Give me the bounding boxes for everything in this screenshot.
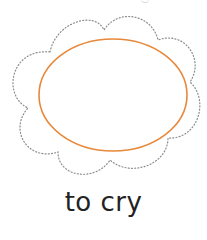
oval-outline (39, 39, 187, 151)
caption-label: to cry (0, 187, 207, 217)
